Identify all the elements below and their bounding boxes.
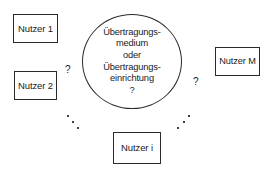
node-nutzer-i-label: Nutzer i: [121, 143, 153, 153]
node-nutzer-1-label: Nutzer 1: [18, 24, 53, 34]
ellipsis-dot: [72, 121, 74, 123]
ellipsis-left: [65, 113, 87, 131]
node-nutzer-2[interactable]: Nutzer 2: [14, 71, 57, 100]
diagram-canvas: Nutzer 1 Nutzer 2 Nutzer M Nutzer i Über…: [0, 0, 271, 170]
ellipse-line-5: einrichtung: [110, 73, 154, 85]
node-nutzer-i[interactable]: Nutzer i: [113, 132, 161, 164]
ellipsis-right: [174, 113, 196, 131]
ellipsis-dot: [77, 127, 79, 129]
question-mark-left: ?: [65, 65, 71, 75]
ellipse-line-3: oder: [123, 50, 141, 62]
ellipse-line-1: Übertragungs-: [103, 27, 160, 39]
ellipse-line-4: Übertragungs-: [103, 62, 160, 74]
transmission-medium-ellipse[interactable]: Übertragungs- medium oder Übertragungs- …: [82, 14, 182, 109]
question-mark-right: ?: [193, 77, 199, 87]
node-nutzer-m[interactable]: Nutzer M: [215, 47, 260, 76]
ellipse-line-6: ?: [129, 85, 134, 97]
ellipsis-dot: [177, 127, 179, 129]
ellipse-line-2: medium: [116, 38, 148, 50]
ellipsis-dot: [67, 115, 69, 117]
ellipsis-dot: [188, 115, 190, 117]
node-nutzer-1[interactable]: Nutzer 1: [13, 14, 58, 43]
node-nutzer-m-label: Nutzer M: [219, 57, 255, 66]
ellipsis-dot: [183, 121, 185, 123]
node-nutzer-2-label: Nutzer 2: [18, 81, 53, 91]
